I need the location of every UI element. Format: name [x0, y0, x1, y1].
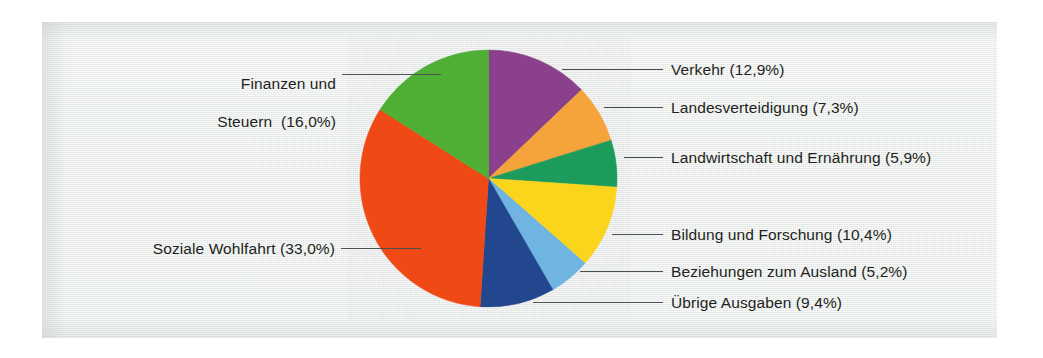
leader-line-uebrige — [533, 302, 663, 303]
pie-chart — [0, 0, 1043, 358]
figure-page: Verkehr (12,9%) Landesverteidigung (7,3%… — [0, 0, 1043, 358]
slice-label-uebrige: Übrige Ausgaben (9,4%) — [671, 293, 842, 312]
leader-line-landesverteidigung — [604, 107, 663, 108]
slice-label-finanzen-line2: Steuern (16,0%) — [217, 113, 336, 130]
leader-line-beziehungen — [580, 271, 663, 272]
slice-label-finanzen: Finanzen und Steuern (16,0%) — [140, 55, 336, 150]
pie-slices — [360, 50, 617, 307]
leader-line-landwirtschaft — [624, 157, 663, 158]
slice-label-beziehungen: Beziehungen zum Ausland (5,2%) — [671, 262, 908, 281]
slice-label-landwirtschaft: Landwirtschaft und Ernährung (5,9%) — [671, 148, 931, 167]
leader-line-finanzen — [342, 74, 441, 75]
leader-line-verkehr — [562, 69, 663, 70]
slice-label-soziale: Soziale Wohlfahrt (33,0%) — [60, 239, 335, 258]
slice-label-finanzen-line1: Finanzen und — [241, 75, 336, 92]
slice-label-landesverteidigung: Landesverteidigung (7,3%) — [671, 98, 859, 117]
slice-label-bildung: Bildung und Forschung (10,4%) — [671, 225, 892, 244]
slice-label-verkehr: Verkehr (12,9%) — [671, 60, 785, 79]
leader-line-soziale — [341, 248, 421, 249]
leader-line-bildung — [612, 234, 663, 235]
